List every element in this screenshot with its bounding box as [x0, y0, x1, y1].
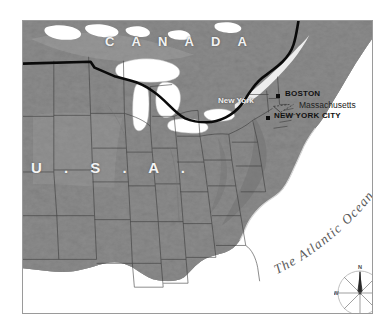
compass-label-north: N: [358, 264, 362, 270]
map-frame: C A N A D A U . S . A . New York BOSTON …: [22, 20, 373, 314]
map-figure: C A N A D A U . S . A . New York BOSTON …: [0, 0, 391, 331]
marker-new-york-city: [266, 116, 270, 120]
marker-boston: [276, 94, 280, 98]
compass-needle: [357, 272, 362, 294]
compass-ring: [338, 271, 373, 314]
plains-shading: [33, 113, 122, 188]
compass-label-west: W: [334, 290, 339, 296]
compass-center: [359, 292, 362, 295]
compass-rose: N S E W: [334, 263, 373, 314]
